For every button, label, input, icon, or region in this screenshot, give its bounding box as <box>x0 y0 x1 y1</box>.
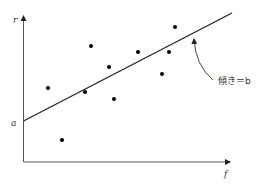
data-point <box>89 44 93 48</box>
intercept-label: a <box>11 118 16 128</box>
data-point <box>112 97 116 101</box>
y-axis-label: r <box>13 15 18 25</box>
x-axis-label: f <box>223 169 229 179</box>
data-point <box>46 86 50 90</box>
data-point <box>107 65 111 69</box>
regression-line <box>24 13 233 121</box>
data-point <box>173 25 177 29</box>
data-point <box>60 138 64 142</box>
data-point <box>83 90 87 94</box>
data-point <box>160 72 164 76</box>
data-points <box>46 25 177 142</box>
scatter-chart: r f a 傾き＝b <box>0 0 258 185</box>
slope-annotation-arrow <box>194 39 213 80</box>
data-point <box>136 50 140 54</box>
slope-annotation: 傾き＝b <box>218 75 251 86</box>
data-point <box>167 50 171 54</box>
